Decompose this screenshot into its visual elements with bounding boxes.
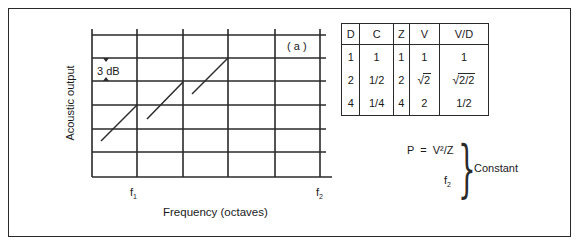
table-cell: 4 bbox=[393, 92, 409, 116]
table-cell: 1/4 bbox=[360, 92, 393, 116]
x-tick-f1: f1 bbox=[130, 187, 137, 200]
parameter-table: D C Z V V/D 1 1 1 1 1 2 1/2 2 √2 √2/2 4 … bbox=[341, 23, 489, 116]
constant-label: Constant bbox=[474, 163, 518, 174]
table-cell: 1 bbox=[393, 45, 409, 69]
formula-f2-sub: 2 bbox=[447, 181, 451, 188]
table-cell: 1 bbox=[360, 45, 393, 69]
table-cell: 4 bbox=[342, 92, 360, 116]
x-tick-f2-sub: 2 bbox=[319, 193, 323, 200]
y-axis-label: Acoustic output bbox=[64, 65, 76, 140]
x-tick-f2: f2 bbox=[316, 187, 323, 200]
col-header: V bbox=[409, 24, 439, 45]
slope-segment bbox=[147, 82, 183, 119]
radicand: 2 bbox=[423, 73, 431, 86]
panel-label: ( a ) bbox=[287, 41, 307, 52]
table-cell: 1 bbox=[439, 45, 488, 69]
col-header: D bbox=[342, 24, 360, 45]
slope-segment bbox=[101, 105, 137, 141]
table-row: 4 1/4 4 2 1/2 bbox=[342, 92, 489, 116]
table-cell: 2 bbox=[409, 92, 439, 116]
table-cell: 1 bbox=[409, 45, 439, 69]
formula-power: P = V²/Z bbox=[407, 145, 454, 156]
table-cell: 1/2 bbox=[439, 92, 488, 116]
table-cell: 1/2 bbox=[360, 68, 393, 91]
step-annotation: 3 dB bbox=[97, 66, 120, 77]
table-cell-sqrt: √2 bbox=[409, 68, 439, 91]
formula-f2: f2 bbox=[444, 175, 451, 188]
table-row: 1 1 1 1 1 bbox=[342, 45, 489, 69]
col-header: V/D bbox=[439, 24, 488, 45]
table-cell-sqrt: √2/2 bbox=[439, 68, 488, 91]
x-tick-f1-sub: 1 bbox=[133, 193, 137, 200]
table-row: 2 1/2 2 √2 √2/2 bbox=[342, 68, 489, 91]
table-cell: 2 bbox=[342, 68, 360, 91]
slope-segment bbox=[192, 58, 228, 94]
col-header: C bbox=[360, 24, 393, 45]
arrow-down-icon bbox=[103, 58, 109, 62]
arrow-up-icon bbox=[103, 77, 109, 81]
x-axis-label: Frequency (octaves) bbox=[163, 207, 268, 219]
table-cell: 1 bbox=[342, 45, 360, 69]
octave-response-plot bbox=[0, 0, 582, 247]
col-header: Z bbox=[393, 24, 409, 45]
table-cell: 2 bbox=[393, 68, 409, 91]
radicand: 2/2 bbox=[458, 73, 475, 86]
table-header-row: D C Z V V/D bbox=[342, 24, 489, 45]
